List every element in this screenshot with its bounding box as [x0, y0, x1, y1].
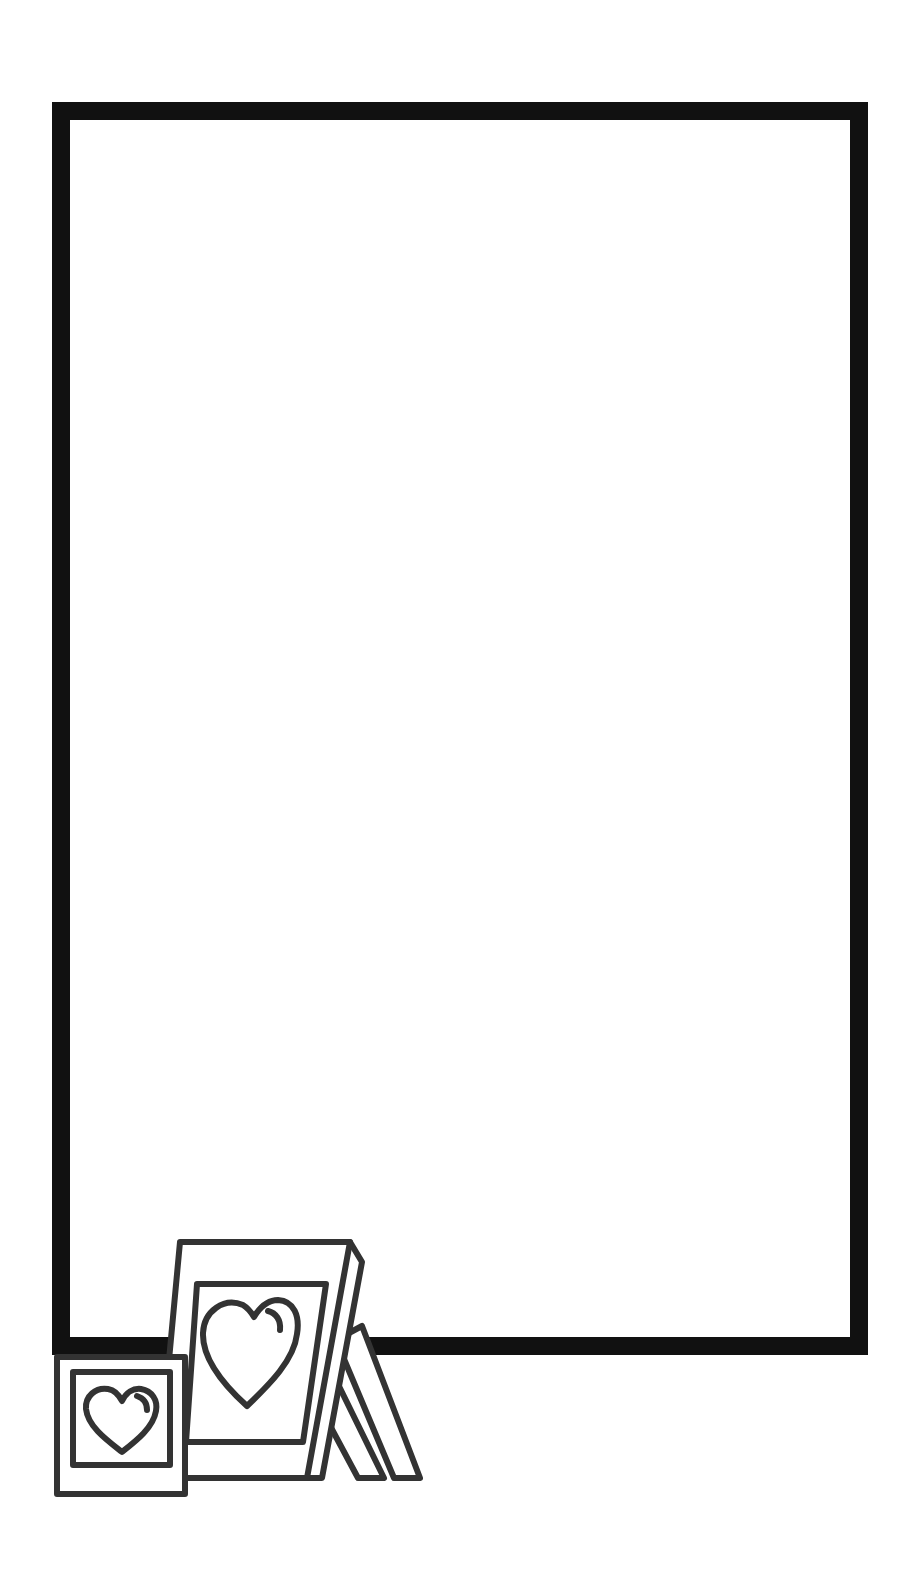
small-frame: [57, 1357, 185, 1494]
page-canvas: Blank photo frame page with heart pictur…: [0, 0, 924, 1585]
border-frame: [61, 111, 859, 1346]
illustration: [0, 0, 924, 1585]
